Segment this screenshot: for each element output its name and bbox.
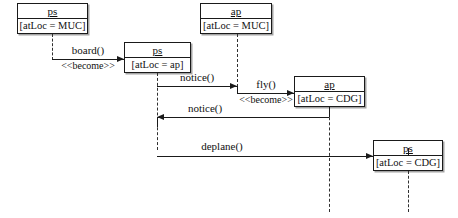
connector-deplane-end bbox=[408, 148, 409, 156]
message-label-deplane: deplane() bbox=[162, 140, 282, 152]
uml-sequence-diagram: ps [atLoc = MUC] ps [atLoc = ap] ap [atL… bbox=[0, 0, 458, 218]
message-stereotype-board: <<become>> bbox=[28, 60, 148, 71]
object-name-ps-muc: ps bbox=[18, 4, 87, 19]
message-line-deplane[interactable] bbox=[157, 156, 373, 157]
connector-notice-2-drop bbox=[329, 107, 330, 117]
object-attribute-ps-cdg: [atLoc = CDG] bbox=[374, 156, 442, 171]
message-label-fly: fly() bbox=[206, 78, 326, 90]
message-arrowhead-notice-2 bbox=[157, 114, 164, 120]
message-label-notice-2: notice() bbox=[145, 102, 265, 114]
lifeline-ps-cdg bbox=[408, 171, 409, 212]
object-attribute-ps-muc: [atLoc = MUC] bbox=[18, 19, 87, 34]
message-arrowhead-deplane bbox=[366, 153, 373, 159]
connector-notice-1-drop bbox=[237, 86, 238, 93]
object-name-ap-muc: ap bbox=[201, 4, 271, 19]
connector-notice-2-end bbox=[157, 117, 158, 127]
object-attribute-ap-muc: [atLoc = MUC] bbox=[201, 19, 271, 34]
message-label-board: board() bbox=[28, 44, 148, 56]
message-line-notice-2[interactable] bbox=[157, 117, 329, 118]
lifeline-ap-cdg bbox=[329, 107, 330, 212]
object-box-ap-muc[interactable]: ap [atLoc = MUC] bbox=[200, 3, 272, 34]
object-box-ps-muc[interactable]: ps [atLoc = MUC] bbox=[17, 3, 88, 34]
